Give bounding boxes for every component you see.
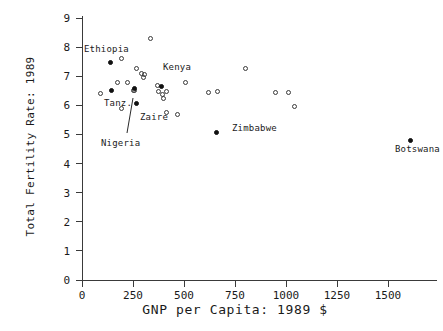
y-tick-label: 2 bbox=[54, 217, 70, 228]
x-tick-label: 500 bbox=[159, 290, 209, 301]
x-tick-label: 1500 bbox=[363, 290, 413, 301]
data-point-open bbox=[134, 66, 139, 71]
y-tick-label: 1 bbox=[54, 246, 70, 257]
x-tick-label: 250 bbox=[108, 290, 158, 301]
data-point-open bbox=[164, 89, 169, 94]
point-annotation: Botswana bbox=[395, 145, 440, 154]
y-tick-label: 7 bbox=[54, 71, 70, 82]
x-tick-label: 1000 bbox=[261, 290, 311, 301]
point-annotation: Kenya bbox=[163, 63, 191, 72]
y-tick-label: 0 bbox=[54, 275, 70, 286]
x-tick-label: 750 bbox=[210, 290, 260, 301]
point-annotation: Nigeria bbox=[101, 139, 140, 148]
y-tick-label: 6 bbox=[54, 100, 70, 111]
data-point-open bbox=[161, 96, 166, 101]
data-point-open bbox=[115, 80, 120, 85]
data-point-filled bbox=[159, 84, 164, 89]
data-point-filled bbox=[408, 138, 413, 143]
y-tick-label: 3 bbox=[54, 188, 70, 199]
data-point-filled bbox=[108, 60, 113, 65]
data-point-open bbox=[183, 80, 188, 85]
data-point-open bbox=[125, 80, 130, 85]
point-annotation: Zimbabwe bbox=[232, 124, 277, 133]
data-point-open bbox=[286, 90, 291, 95]
data-point-filled bbox=[132, 86, 137, 91]
data-point-open bbox=[206, 90, 211, 95]
data-point-open bbox=[215, 89, 220, 94]
scatter-plot-figure: Total Fertility Rate: 1989 GNP per Capit… bbox=[0, 0, 443, 331]
data-point-filled bbox=[134, 101, 139, 106]
y-tick-label: 9 bbox=[54, 13, 70, 24]
point-annotation: Zaire bbox=[140, 113, 168, 122]
x-tick-label: 0 bbox=[57, 290, 107, 301]
data-point-open bbox=[292, 104, 297, 109]
point-annotation: Ethiopia bbox=[84, 45, 129, 54]
data-point-open bbox=[142, 72, 147, 77]
x-tick-label: 1250 bbox=[312, 290, 362, 301]
y-tick-label: 4 bbox=[54, 159, 70, 170]
point-annotation: Tanz. bbox=[104, 99, 132, 108]
y-tick-label: 5 bbox=[54, 129, 70, 140]
y-tick-label: 8 bbox=[54, 42, 70, 53]
